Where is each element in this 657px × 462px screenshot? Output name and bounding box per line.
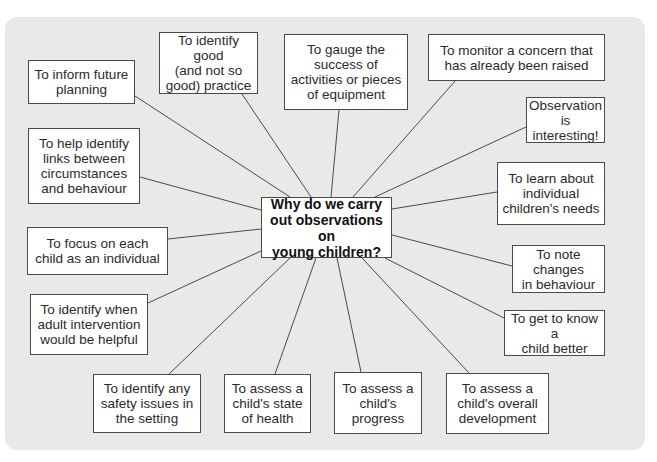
reason-line: adult intervention bbox=[38, 317, 141, 332]
reason-line: child's state bbox=[232, 396, 303, 411]
central-question: Why do we carry out observations on youn… bbox=[261, 197, 392, 258]
connector-progress bbox=[337, 258, 361, 372]
reason-inform-future-planning: To inform future planning bbox=[28, 60, 135, 104]
reason-learn-individual-needs: To learn about individual children's nee… bbox=[497, 162, 605, 225]
reason-progress: To assess a child's progress bbox=[334, 372, 422, 434]
reason-observation-interesting: Observation is interesting! bbox=[526, 97, 605, 143]
reason-line: To learn about bbox=[502, 171, 599, 186]
reason-monitor-concern: To monitor a concern that has already be… bbox=[428, 34, 605, 81]
reason-know-child-better: To get to know a child better bbox=[504, 310, 605, 356]
reason-line: the setting bbox=[101, 411, 193, 426]
reason-line: links between bbox=[39, 151, 129, 166]
reason-line: To get to know a bbox=[509, 311, 600, 341]
reason-line: To monitor a concern that bbox=[440, 43, 592, 58]
reason-gauge-success: To gauge the success of activities or pi… bbox=[284, 34, 408, 110]
reason-line: To identify good bbox=[164, 33, 253, 63]
reason-line: of equipment bbox=[291, 87, 401, 102]
reason-state-of-health: To assess a child's state of health bbox=[224, 374, 311, 433]
reason-line: To identify any bbox=[101, 381, 193, 396]
reason-line: To note changes bbox=[517, 247, 600, 277]
reason-identify-good-practice: To identify good (and not so good) pract… bbox=[159, 32, 258, 94]
reason-adult-intervention: To identify when adult intervention woul… bbox=[30, 294, 148, 355]
reason-line: To identify when bbox=[38, 302, 141, 317]
reason-line: To assess a bbox=[342, 381, 413, 396]
reason-line: (and not so bbox=[164, 63, 253, 78]
reason-safety-issues: To identify any safety issues in the set… bbox=[93, 374, 201, 433]
connector-help-identify-links bbox=[140, 177, 261, 210]
reason-line: child's bbox=[342, 396, 413, 411]
connector-focus-individual bbox=[168, 229, 261, 239]
reason-line: To assess a bbox=[232, 381, 303, 396]
reason-line: Observation is bbox=[529, 98, 602, 128]
reason-line: child better bbox=[509, 341, 600, 356]
reason-line: activities or pieces bbox=[291, 72, 401, 87]
reason-line: To gauge the bbox=[291, 42, 401, 57]
central-question-line: Why do we carry bbox=[266, 196, 387, 212]
connector-gauge-success bbox=[331, 110, 339, 197]
reason-line: child's overall bbox=[457, 396, 538, 411]
connector-safety-issues bbox=[169, 258, 290, 374]
reason-line: children's needs bbox=[502, 201, 599, 216]
reason-line: interesting! bbox=[529, 128, 602, 143]
reason-line: has already been raised bbox=[440, 58, 592, 73]
reason-line: To inform future bbox=[35, 67, 129, 82]
reason-line: development bbox=[457, 411, 538, 426]
reason-overall-development: To assess a child's overall development bbox=[446, 373, 549, 434]
reason-line: good) practice bbox=[164, 78, 253, 93]
connector-state-health bbox=[275, 258, 316, 374]
reason-line: of health bbox=[232, 411, 303, 426]
reason-identify-links: To help identify links between circumsta… bbox=[28, 128, 140, 204]
reason-line: To focus on each bbox=[35, 236, 160, 251]
reason-line: would be helpful bbox=[38, 332, 141, 347]
connector-note-changes bbox=[392, 235, 512, 266]
central-question-line: young children? bbox=[266, 244, 387, 260]
reason-line: planning bbox=[35, 82, 129, 97]
connector-overall-development bbox=[362, 258, 469, 373]
reason-line: circumstances bbox=[39, 166, 129, 181]
reason-line: To help identify bbox=[39, 136, 129, 151]
reason-focus-individual: To focus on each child as an individual bbox=[27, 227, 168, 275]
reason-note-changes-behaviour: To note changes in behaviour bbox=[512, 245, 605, 293]
connector-learn-needs bbox=[392, 192, 497, 209]
reason-line: child as an individual bbox=[35, 251, 160, 266]
connector-know-child bbox=[385, 258, 504, 318]
reason-line: in behaviour bbox=[517, 277, 600, 292]
reason-line: and behaviour bbox=[39, 181, 129, 196]
reason-line: progress bbox=[342, 411, 413, 426]
reason-line: To assess a bbox=[457, 381, 538, 396]
central-question-line: out observations on bbox=[266, 212, 387, 244]
reason-line: safety issues in bbox=[101, 396, 193, 411]
reason-line: individual bbox=[502, 186, 599, 201]
reason-line: success of bbox=[291, 57, 401, 72]
